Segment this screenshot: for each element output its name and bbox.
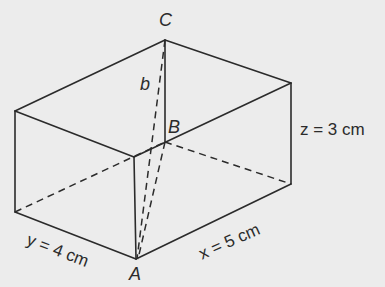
vertex-label-B: B: [168, 117, 180, 138]
edge-top-back-right: [165, 40, 291, 83]
hidden-edge-B-to-right: [165, 142, 291, 184]
edge-front-vertical: [134, 157, 136, 259]
diagonal-label-b: b: [140, 74, 150, 95]
dimension-label-z: z = 3 cm: [300, 120, 365, 140]
diagonal-B-to-A: [138, 142, 165, 259]
vertex-label-C: C: [159, 10, 172, 31]
diagonal-b-C-to-A: [137, 40, 165, 259]
vertex-label-A: A: [129, 264, 141, 285]
edge-top-left-front: [15, 111, 134, 157]
